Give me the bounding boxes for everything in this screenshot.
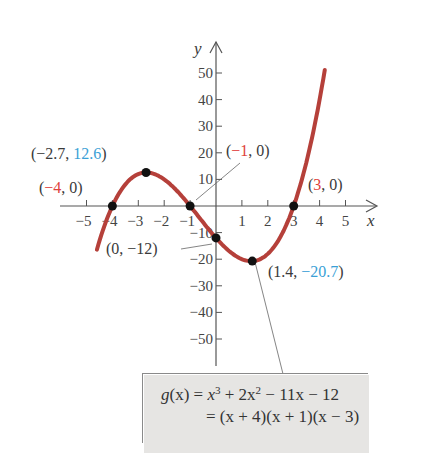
x-tick-label: 4 xyxy=(316,213,324,229)
y-tick-label: 40 xyxy=(198,92,213,108)
leader-line-yint xyxy=(181,244,212,249)
point-local-min-marker xyxy=(248,257,257,266)
point-zero-marker xyxy=(108,202,117,211)
x-tick-label: −2 xyxy=(153,213,169,229)
y-tick-label: 30 xyxy=(198,118,213,134)
label-y-intercept: (0, −12) xyxy=(106,240,158,258)
label-zero-3: (3, 0) xyxy=(308,176,343,194)
label-local-min: (1.4, −20.7) xyxy=(268,263,344,281)
y-tick-label: −40 xyxy=(190,304,213,320)
x-tick-label: 2 xyxy=(264,213,272,229)
point-zero-marker xyxy=(289,202,298,211)
y-axis-label: y xyxy=(192,39,202,58)
point-zero-marker xyxy=(186,202,195,211)
formula-box-border-left xyxy=(142,373,143,443)
x-tick-label: 5 xyxy=(342,213,350,229)
label-local-max: (−2.7, 12.6) xyxy=(31,145,107,163)
formula-line-1: g(x) = x3 + 2x2 − 11x − 12 xyxy=(161,385,339,405)
y-tick-label: −50 xyxy=(190,331,213,347)
x-axis-label: x xyxy=(366,211,375,230)
y-tick-label: 10 xyxy=(198,171,213,187)
x-tick-label: 1 xyxy=(238,213,246,229)
y-tick-label: −30 xyxy=(190,278,213,294)
x-tick-label: −3 xyxy=(127,213,143,229)
point-local-max-marker xyxy=(142,168,151,177)
x-tick-label: −5 xyxy=(76,213,92,229)
y-tick-label: −20 xyxy=(190,251,213,267)
y-tick-label: 20 xyxy=(198,145,213,161)
label-zero-minus1: (−1, 0) xyxy=(226,142,270,160)
formula-box: g(x) = x3 + 2x2 − 11x − 12 = (x + 4)(x +… xyxy=(144,375,369,453)
label-zero-minus4: (−4, 0) xyxy=(39,179,83,197)
formula-line-2: = (x + 4)(x + 1)(x − 3) xyxy=(206,407,359,427)
point-y-intercept-marker xyxy=(212,233,221,242)
formula-box-border-top xyxy=(142,373,368,374)
axes xyxy=(60,42,377,366)
y-tick-label: 50 xyxy=(198,65,213,81)
